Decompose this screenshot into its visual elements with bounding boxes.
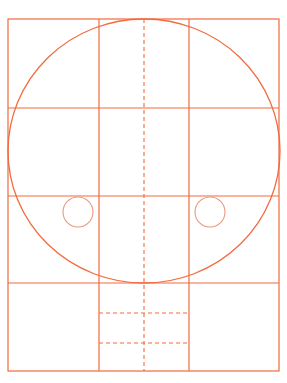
small-circle <box>195 197 225 227</box>
proportion-diagram <box>0 0 287 383</box>
small-circle <box>63 197 93 227</box>
